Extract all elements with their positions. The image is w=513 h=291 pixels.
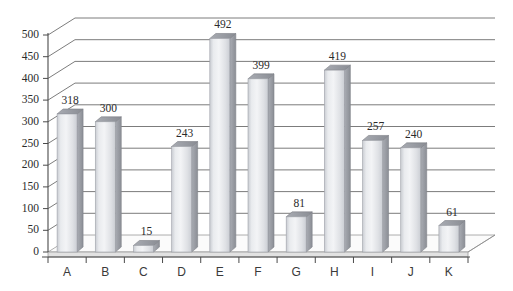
bar-side-face: [230, 33, 236, 252]
bar-front-face: [439, 226, 459, 252]
y-axis-tick-label: 450: [22, 50, 40, 62]
x-axis-category-label: H: [330, 265, 339, 279]
bar-front-face: [363, 140, 383, 252]
y-axis-tick-label: 0: [33, 245, 39, 257]
floor-front-edge: [48, 252, 468, 257]
bar-front-face: [57, 114, 77, 252]
bar-value-label: 81: [293, 197, 305, 209]
y-axis-tick-labels: 050100150200250300350400450500: [22, 28, 40, 257]
bar-side-face: [77, 109, 83, 252]
bar-side-face: [459, 221, 465, 252]
bar-value-label: 240: [405, 128, 423, 140]
y-axis-tick-label: 250: [22, 137, 40, 149]
bar-value-label: 300: [100, 102, 118, 114]
bar-front-face: [172, 147, 192, 252]
x-axis-category-label: I: [371, 265, 375, 279]
bar-front-face: [95, 122, 115, 252]
gridline: [48, 40, 495, 57]
bar-side-face: [115, 117, 121, 252]
y-axis-tick-label: 150: [22, 180, 40, 192]
bar-column: [210, 33, 236, 252]
y-axis-tick-label: 400: [22, 72, 40, 84]
bar-column: [133, 240, 159, 252]
bar-value-label: 399: [252, 59, 270, 71]
bar-side-face: [306, 212, 312, 252]
x-axis-category-label: A: [63, 265, 71, 279]
bar-front-face: [133, 245, 153, 252]
x-axis-category-label: J: [408, 265, 414, 279]
gridline: [48, 18, 495, 35]
y-axis-tick-label: 350: [22, 93, 40, 105]
bar-side-face: [344, 65, 350, 252]
bar-side-face: [268, 74, 274, 252]
bar-column: [439, 221, 465, 252]
x-axis-category-label: B: [101, 265, 109, 279]
x-axis-category-label: D: [177, 265, 186, 279]
bar-side-face: [421, 143, 427, 252]
bar-column: [95, 117, 121, 252]
y-axis-tick-label: 50: [28, 223, 40, 235]
bar-value-label: 419: [329, 50, 347, 62]
y-axis-tick-label: 200: [22, 158, 40, 170]
bar-front-face: [286, 217, 306, 252]
bar-column: [401, 143, 427, 252]
bar-column: [172, 142, 198, 252]
y-axis-tick-label: 300: [22, 115, 40, 127]
x-axis-category-label: G: [291, 265, 301, 279]
bar-chart: 050100150200250300350400450500 318300152…: [0, 0, 513, 291]
y-axis-tick-label: 500: [22, 28, 40, 40]
x-axis-category-label: C: [139, 265, 148, 279]
bar-front-face: [210, 38, 230, 252]
bar-front-face: [324, 70, 344, 252]
chart-canvas: 050100150200250300350400450500 318300152…: [0, 0, 513, 291]
y-axis-tick-label: 100: [22, 202, 40, 214]
bar-side-face: [192, 142, 198, 252]
bar-column: [324, 65, 350, 252]
bar-value-label: 318: [61, 94, 79, 106]
bar-value-label: 15: [141, 225, 153, 237]
bar-front-face: [248, 79, 268, 252]
bar-column: [57, 109, 83, 252]
bar-value-label: 61: [446, 206, 458, 218]
x-axis-category-label: K: [445, 265, 453, 279]
x-axis-tick-labels: ABCDEFGHIJK: [63, 265, 453, 279]
bar-side-face: [383, 135, 389, 252]
bar-value-label: 243: [176, 127, 194, 139]
bar-front-face: [401, 148, 421, 252]
x-axis-category-label: E: [216, 265, 224, 279]
x-axis-category-label: F: [254, 265, 262, 279]
bar-column: [248, 74, 274, 252]
bar-value-label: 492: [214, 18, 232, 30]
bar-column: [286, 212, 312, 252]
bar-column: [363, 135, 389, 252]
bar-value-label: 257: [367, 120, 385, 132]
